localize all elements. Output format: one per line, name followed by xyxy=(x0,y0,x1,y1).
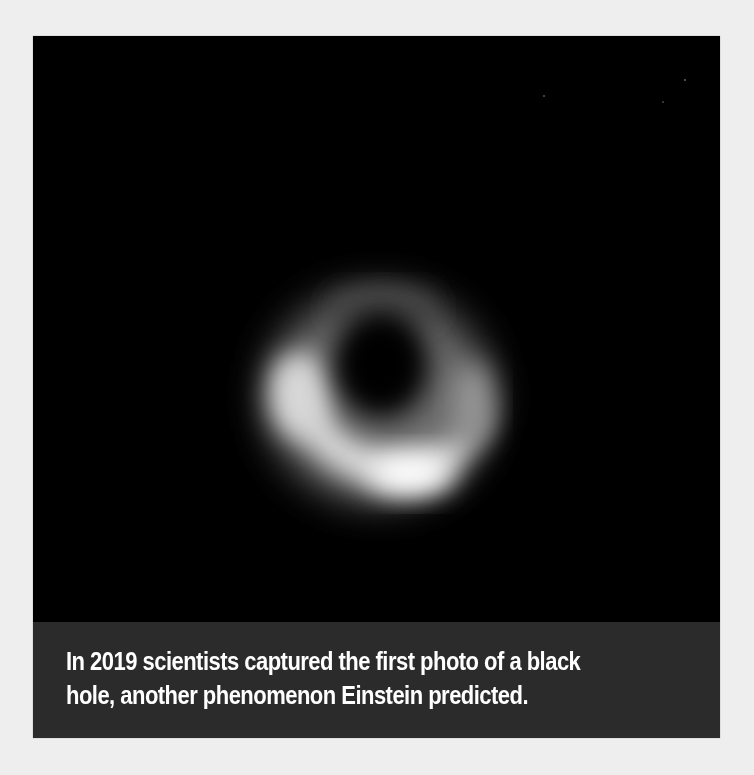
black-hole-photo xyxy=(33,36,720,622)
figure: In 2019 scientists captured the first ph… xyxy=(33,36,720,738)
caption-text: In 2019 scientists captured the first ph… xyxy=(66,644,629,712)
black-hole-ring-image xyxy=(33,36,720,622)
caption-band: In 2019 scientists captured the first ph… xyxy=(33,622,720,738)
